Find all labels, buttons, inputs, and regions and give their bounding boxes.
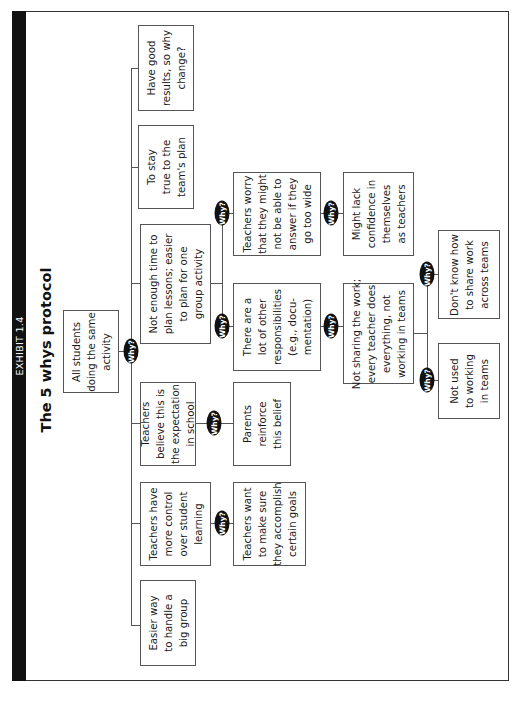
node-text: Teachers want to make sure they accompli… (240, 482, 300, 565)
node-text: Not sharing the work; every teacher does… (349, 278, 409, 388)
node-have-good-results: Have good results, so why change? (138, 25, 194, 111)
why-badge-teachers-worry: Why? (215, 201, 230, 226)
not-sharing-out (413, 333, 427, 334)
node-lack-confidence: Might lack confidence in themselves as t… (343, 172, 414, 256)
sub-spine-4 (427, 274, 428, 381)
branch-not-enough-time (131, 283, 140, 284)
branch-stay-true (131, 167, 138, 168)
node-text: Parents reinforce this belief (240, 399, 285, 449)
node-text: Don't know how to share work across team… (447, 234, 492, 316)
not-enough-time-out (210, 283, 222, 284)
why-badge-teachers-want: Why? (215, 511, 230, 536)
node-not-used: Not used to working in teams (438, 343, 500, 419)
exhibit-label: EXHIBIT 1.4 (14, 316, 25, 375)
branch-have-good-results (131, 68, 138, 69)
why-badge-dont-know: Why? (420, 262, 435, 287)
node-easier-way: Easier way to handle a big group (140, 580, 196, 666)
node-text: Not enough time to plan lessons; easier … (146, 234, 206, 335)
root-node-text: All students doing the same activity (69, 312, 114, 391)
node-text: Have good results, so why change? (144, 30, 189, 106)
node-text: Teachers worry that they might not be ab… (240, 174, 315, 254)
branch-easier-way (131, 625, 140, 626)
node-stay-true: To stay true to the team's plan (138, 125, 194, 209)
node-text: Not used to working in teams (447, 354, 492, 408)
branch-more-control (131, 523, 140, 524)
node-not-sharing: Not sharing the work; every teacher does… (343, 283, 414, 384)
node-text: Might lack confidence in themselves as t… (349, 180, 409, 248)
node-text: Easier way to handle a big group (146, 594, 191, 652)
root-node: All students doing the same activity (63, 310, 119, 393)
node-teachers-worry: Teachers worry that they might not be ab… (233, 172, 321, 256)
node-parents-reinforce: Parents reinforce this belief (233, 382, 291, 466)
node-text: Teachers have more control over student … (146, 487, 206, 560)
why-badge-not-sharing: Why? (324, 314, 339, 339)
node-text: There are a lot of other responsibilitie… (240, 289, 315, 365)
node-text: Teachers believe this is the expectation… (138, 384, 198, 464)
node-teachers-want: Teachers want to make sure they accompli… (233, 482, 306, 566)
node-text: To stay true to the team's plan (144, 137, 189, 197)
why-badge-not-used: Why? (420, 368, 435, 393)
node-more-control: Teachers have more control over student … (140, 482, 211, 566)
why-badge-parents: Why? (207, 411, 222, 436)
diagram-title: The 5 whys protocol (38, 268, 54, 433)
why-badge-lack-confidence: Why? (324, 201, 339, 226)
node-other-responsibilities: There are a lot of other responsibilitie… (233, 283, 321, 371)
node-not-enough-time: Not enough time to plan lessons; easier … (140, 224, 211, 344)
sub-spine-2 (222, 213, 223, 327)
node-dont-know-how: Don't know how to share work across team… (438, 230, 500, 319)
why-badge-other-responsibilities: Why? (215, 314, 230, 339)
why-badge-root: Why? (124, 339, 139, 364)
node-teachers-believe: Teachers believe this is the expectation… (140, 382, 196, 466)
